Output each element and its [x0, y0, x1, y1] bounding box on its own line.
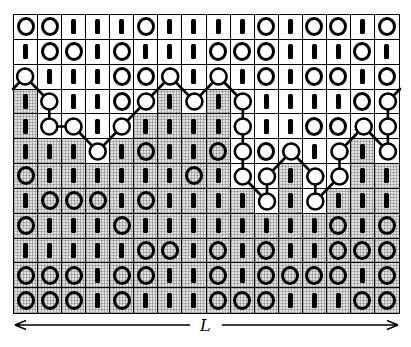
symbol-I: [191, 19, 196, 34]
grid-cell: [255, 139, 279, 164]
grid-cell: [375, 239, 399, 264]
symbol-I: [167, 293, 172, 308]
symbol-I: [71, 69, 76, 84]
grid-cell: [279, 90, 303, 115]
grid-cell: [38, 263, 62, 288]
grid-cell: [62, 40, 86, 65]
symbol-O: [65, 42, 83, 61]
symbol-O: [329, 17, 347, 36]
grid-cell: [207, 90, 231, 115]
grid-cell: [158, 139, 182, 164]
symbol-I: [119, 19, 124, 34]
symbol-I: [216, 94, 221, 109]
grid-cell: [327, 90, 351, 115]
symbol-O: [378, 291, 396, 310]
symbol-O: [209, 142, 227, 161]
grid-cell: [134, 114, 158, 139]
symbol-O: [353, 42, 371, 61]
length-arrow-right-line: [222, 321, 398, 330]
symbol-I: [167, 218, 172, 233]
symbol-I: [47, 243, 52, 258]
grid-cell: [14, 288, 38, 313]
grid-cell: [231, 263, 255, 288]
symbol-O: [41, 266, 59, 285]
symbol-I: [264, 119, 269, 134]
grid-cell: [375, 164, 399, 189]
symbol-I: [71, 218, 76, 233]
grid-cell: [279, 65, 303, 90]
grid-cell: [110, 65, 134, 90]
grid-cell: [86, 114, 110, 139]
grid-cell: [375, 114, 399, 139]
symbol-O: [257, 17, 275, 36]
grid-cell: [158, 90, 182, 115]
symbol-I: [240, 69, 245, 84]
grid-cell: [86, 189, 110, 214]
grid-cell: [62, 189, 86, 214]
symbol-I: [23, 119, 28, 134]
symbol-O: [65, 191, 83, 210]
grid-cell: [62, 214, 86, 239]
grid-cell: [38, 139, 62, 164]
grid-cell: [134, 164, 158, 189]
grid-cell: [327, 65, 351, 90]
grid-cell: [14, 139, 38, 164]
grid-cell: [207, 65, 231, 90]
grid-cell: [182, 65, 206, 90]
symbol-O: [41, 291, 59, 310]
grid-cell: [255, 164, 279, 189]
grid-cell: [207, 40, 231, 65]
grid-cell: [38, 288, 62, 313]
grid-cell: [158, 189, 182, 214]
symbol-I: [240, 268, 245, 283]
grid-cell: [38, 239, 62, 264]
symbol-O: [113, 216, 131, 235]
grid-cell: [351, 263, 375, 288]
grid-cell: [327, 263, 351, 288]
symbol-I: [288, 218, 293, 233]
grid-cell: [327, 139, 351, 164]
grid-cell: [62, 139, 86, 164]
grid-cell: [375, 214, 399, 239]
grid-cell: [327, 189, 351, 214]
grid-cell: [207, 139, 231, 164]
symbol-I: [240, 218, 245, 233]
symbol-O: [65, 291, 83, 310]
grid-cell: [14, 65, 38, 90]
grid-cell: [86, 15, 110, 40]
symbol-I: [95, 293, 100, 308]
grid-cell: [62, 15, 86, 40]
grid-cell: [231, 239, 255, 264]
grid-cell: [351, 15, 375, 40]
grid-cell: [279, 40, 303, 65]
grid-cell: [375, 139, 399, 164]
grid-cell: [231, 40, 255, 65]
grid-cell: [86, 263, 110, 288]
grid-cell: [86, 288, 110, 313]
grid-cell: [134, 263, 158, 288]
symbol-O: [305, 17, 323, 36]
grid-cell: [38, 15, 62, 40]
symbol-I: [216, 119, 221, 134]
grid-cell: [182, 288, 206, 313]
grid-cell: [38, 189, 62, 214]
symbol-O: [65, 266, 83, 285]
grid-cell: [207, 164, 231, 189]
grid-cell: [14, 15, 38, 40]
grid-cell: [110, 263, 134, 288]
grid-cell: [231, 288, 255, 313]
symbol-O: [305, 266, 323, 285]
grid-cell: [303, 164, 327, 189]
symbol-I: [71, 144, 76, 159]
grid-cell: [182, 139, 206, 164]
symbol-I: [95, 94, 100, 109]
symbol-I: [360, 193, 365, 208]
grid-cell: [255, 90, 279, 115]
symbol-I: [71, 243, 76, 258]
symbol-I: [47, 69, 52, 84]
symbol-O: [329, 216, 347, 235]
symbol-I: [95, 44, 100, 59]
symbol-O: [329, 241, 347, 260]
symbol-O: [137, 142, 155, 161]
symbol-I: [71, 19, 76, 34]
